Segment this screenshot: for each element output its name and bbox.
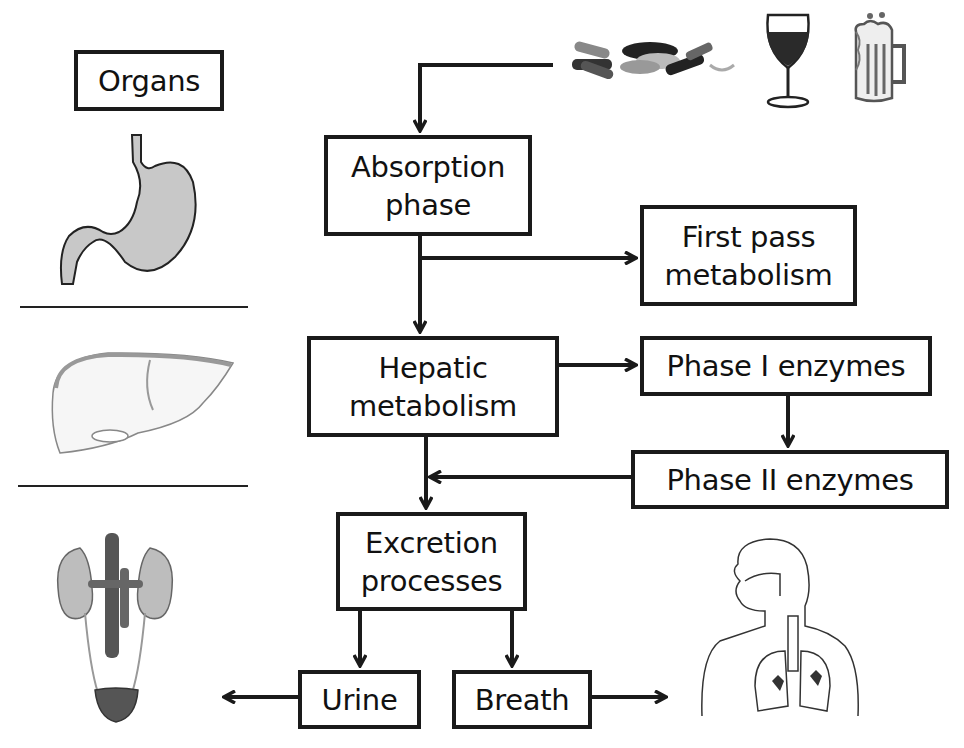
first-pass-line1: First pass	[682, 218, 816, 256]
urine-label: Urine	[322, 681, 398, 719]
excretion-line1: Excretion	[365, 524, 498, 562]
hepatic-line1: Hepatic	[378, 349, 487, 387]
node-urine: Urine	[298, 670, 421, 729]
excretion-line2: processes	[361, 562, 503, 600]
absorption-line1: Absorption	[351, 148, 505, 186]
beer-mug-icon	[848, 10, 912, 106]
stomach-icon	[55, 132, 205, 292]
respiratory-system-icon	[700, 536, 860, 716]
pills-icon	[570, 35, 750, 95]
node-breath: Breath	[452, 670, 592, 729]
divider-2	[18, 485, 248, 487]
wine-glass-icon	[760, 10, 816, 110]
absorption-line2: phase	[385, 186, 471, 224]
first-pass-line2: metabolism	[665, 256, 833, 294]
phase-ii-label: Phase II enzymes	[666, 461, 913, 499]
node-absorption-phase: Absorption phase	[324, 135, 532, 236]
divider-1	[20, 306, 248, 308]
node-hepatic-metabolism: Hepatic metabolism	[307, 336, 559, 437]
kidneys-icon	[50, 528, 180, 728]
organs-label: Organs	[98, 62, 200, 100]
node-phase-i-enzymes: Phase I enzymes	[640, 336, 932, 396]
node-excretion-processes: Excretion processes	[336, 512, 527, 611]
breath-label: Breath	[475, 681, 570, 719]
node-first-pass-metabolism: First pass metabolism	[640, 205, 857, 306]
phase-i-label: Phase I enzymes	[667, 347, 906, 385]
hepatic-line2: metabolism	[349, 387, 517, 425]
organs-label-box: Organs	[74, 50, 224, 111]
liver-icon	[48, 348, 238, 460]
node-phase-ii-enzymes: Phase II enzymes	[631, 450, 949, 509]
